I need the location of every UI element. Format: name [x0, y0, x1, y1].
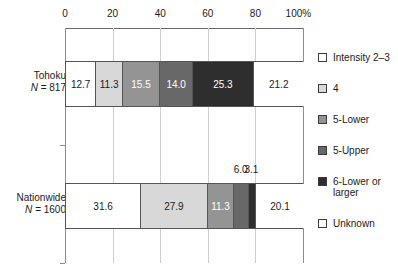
- category-label-nationwide: Nationwide N = 1600: [4, 192, 66, 216]
- category-label-tohoku: Tohoku N = 817: [4, 70, 66, 94]
- y-axis-tick-middle: [60, 145, 65, 146]
- bar-segment: 11.3: [96, 62, 123, 106]
- stacked-bar-chart: 020406080100% Tohoku N = 817 Nationwide …: [0, 0, 398, 273]
- legend-label: Unknown: [333, 218, 375, 229]
- segment-value-label: 15.5: [131, 79, 150, 90]
- bar-segment: 31.6: [66, 184, 141, 228]
- legend-label: 5-Upper: [333, 145, 369, 156]
- bar-segment: 25.3: [193, 62, 253, 106]
- category-n-nationwide: N = 1600: [4, 204, 66, 216]
- segment-value-label: 27.9: [164, 201, 183, 212]
- y-axis-tick-bottom: [60, 263, 65, 264]
- segment-value-label: 14.0: [166, 79, 185, 90]
- x-axis-tick-label: 0: [62, 8, 68, 19]
- segment-value-label: 25.3: [213, 79, 232, 90]
- segment-value-label: 31.6: [93, 201, 112, 212]
- legend-item[interactable]: 5-Lower: [318, 114, 369, 125]
- legend-label: 4: [333, 83, 339, 94]
- bar-nationwide: 31.627.911.320.1: [65, 183, 303, 229]
- legend-swatch-icon: [318, 115, 327, 124]
- legend-label: 6-Lower or larger: [333, 176, 381, 198]
- legend-label: 5-Lower: [333, 114, 369, 125]
- legend-item[interactable]: 6-Lower or larger: [318, 176, 381, 198]
- bar-segment: 15.5: [123, 62, 160, 106]
- x-axis-tick-label: 20: [107, 8, 118, 19]
- legend-swatch-icon: [318, 177, 327, 186]
- category-name-nationwide: Nationwide: [4, 192, 66, 204]
- legend-item[interactable]: Intensity 2–3: [318, 52, 390, 63]
- x-axis-tick-label: 60: [202, 8, 213, 19]
- category-n-tohoku: N = 817: [4, 82, 66, 94]
- category-name-tohoku: Tohoku: [4, 70, 66, 82]
- bar-segment: 27.9: [141, 184, 207, 228]
- x-axis-tick-label: 80: [250, 8, 261, 19]
- legend-swatch-icon: [318, 146, 327, 155]
- segment-value-label: 11.3: [211, 201, 230, 212]
- legend-item[interactable]: 4: [318, 83, 339, 94]
- bar-tohoku: 12.711.315.514.025.321.2: [65, 61, 303, 107]
- x-axis-tick-label: 40: [155, 8, 166, 19]
- n-symbol: N: [31, 82, 38, 93]
- bar-segment: [249, 184, 256, 228]
- bar-segment: 21.2: [254, 62, 304, 106]
- legend-swatch-icon: [318, 219, 327, 228]
- segment-value-label: 12.7: [71, 79, 90, 90]
- n-value: = 817: [41, 82, 66, 93]
- legend-item[interactable]: 5-Upper: [318, 145, 369, 156]
- n-symbol: N: [25, 204, 32, 215]
- segment-value-label: 21.2: [269, 79, 288, 90]
- bar-segment: 12.7: [66, 62, 96, 106]
- x-axis-tick-label: 100%: [286, 8, 312, 19]
- segment-value-label: 20.1: [270, 201, 289, 212]
- legend-item[interactable]: Unknown: [318, 218, 375, 229]
- segment-value-label: 11.3: [100, 79, 119, 90]
- legend-swatch-icon: [318, 53, 327, 62]
- bar-segment: 20.1: [256, 184, 304, 228]
- bar-segment: [234, 184, 248, 228]
- bar-segment: 11.3: [208, 184, 235, 228]
- x-axis-line: [65, 28, 303, 29]
- legend-label: Intensity 2–3: [333, 52, 390, 63]
- n-value: = 1600: [35, 204, 66, 215]
- segment-callout-label: 3.1: [245, 164, 259, 175]
- bar-segment: 14.0: [160, 62, 193, 106]
- legend-swatch-icon: [318, 84, 327, 93]
